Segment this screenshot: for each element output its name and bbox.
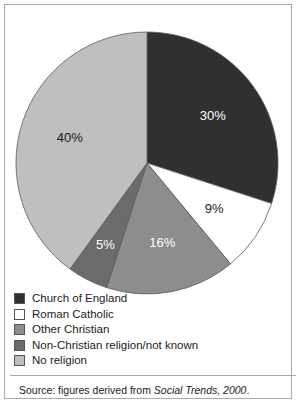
legend-item-no-religion: No religion [14, 353, 286, 369]
legend-label-no-religion: No religion [32, 354, 87, 367]
legend-swatch-church-of-england [14, 293, 25, 304]
pie-svg: 30%9%16%5%40% [5, 5, 291, 295]
legend-swatch-roman-catholic [14, 309, 25, 320]
pie-slice-label: 5% [96, 237, 115, 252]
figure-frame: 30%9%16%5%40% Church of England Roman Ca… [4, 4, 292, 399]
source-note: Source: figures derived from Social Tren… [19, 384, 284, 396]
legend-label-non-christian: Non-Christian religion/not known [32, 339, 198, 352]
legend-item-church-of-england: Church of England [14, 291, 286, 307]
legend-item-roman-catholic: Roman Catholic [14, 307, 286, 323]
legend-swatch-other-christian [14, 324, 25, 335]
chart-legend: Church of England Roman Catholic Other C… [14, 291, 286, 369]
pie-chart-figure: 30%9%16%5%40% Church of England Roman Ca… [0, 0, 297, 408]
pie-slices [16, 32, 278, 294]
legend-label-other-christian: Other Christian [32, 323, 109, 336]
legend-swatch-no-religion [14, 355, 25, 366]
source-suffix: . [246, 384, 249, 396]
source-title: Social Trends, 2000 [154, 384, 247, 396]
pie-slice-label: 9% [205, 201, 224, 216]
legend-label-church-of-england: Church of England [32, 292, 127, 305]
pie-slice-label: 30% [200, 108, 226, 123]
legend-item-non-christian: Non-Christian religion/not known [14, 338, 286, 354]
source-divider [10, 375, 296, 376]
source-prefix: Source: figures derived from [19, 384, 154, 396]
legend-label-roman-catholic: Roman Catholic [32, 308, 114, 321]
pie-slice-label: 16% [149, 235, 175, 250]
pie-slice-label: 40% [57, 130, 83, 145]
legend-item-other-christian: Other Christian [14, 322, 286, 338]
chart-area: 30%9%16%5%40% [5, 5, 291, 295]
legend-swatch-non-christian [14, 340, 25, 351]
